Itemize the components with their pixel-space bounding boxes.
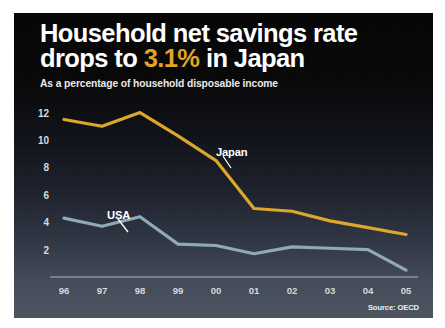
x-axis-tick-03: 03 xyxy=(317,285,343,296)
x-axis-tick-96: 96 xyxy=(51,285,77,296)
x-axis-tick-02: 02 xyxy=(279,285,305,296)
x-axis-tick-99: 99 xyxy=(165,285,191,296)
y-axis-tick-12: 12 xyxy=(27,107,49,118)
plot-area: 2468101296979899000102030405JapanUSA xyxy=(14,13,433,318)
source-caption: Source: OECD xyxy=(368,303,419,312)
series-label-usa: USA xyxy=(107,209,130,221)
y-axis-tick-4: 4 xyxy=(27,217,49,228)
y-axis-tick-8: 8 xyxy=(27,162,49,173)
x-axis-tick-04: 04 xyxy=(355,285,381,296)
series-label-japan: Japan xyxy=(216,146,247,158)
chart-panel: Household net savings rate drops to 3.1%… xyxy=(14,13,433,318)
x-axis-tick-00: 00 xyxy=(203,285,229,296)
x-axis-tick-97: 97 xyxy=(89,285,115,296)
y-axis-tick-6: 6 xyxy=(27,189,49,200)
y-axis-tick-2: 2 xyxy=(27,244,49,255)
y-axis-tick-10: 10 xyxy=(27,135,49,146)
x-axis-tick-01: 01 xyxy=(241,285,267,296)
x-axis-tick-05: 05 xyxy=(393,285,419,296)
line-chart-svg xyxy=(14,13,433,318)
x-axis-tick-98: 98 xyxy=(127,285,153,296)
chart-figure: Household net savings rate drops to 3.1%… xyxy=(0,0,445,328)
